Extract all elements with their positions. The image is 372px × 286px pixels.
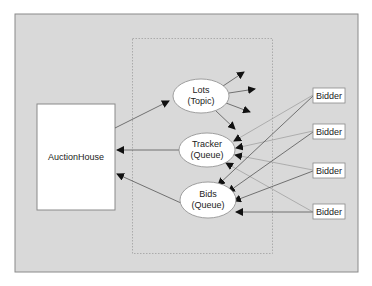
- bidder-node: Bidder: [313, 124, 345, 139]
- bidder-node: Bidder: [313, 204, 345, 219]
- bidder-label: Bidder: [316, 166, 342, 176]
- bidder-node: Bidder: [313, 88, 345, 103]
- bids-name: Bids: [199, 189, 217, 199]
- lots-topic-node: Lots (Topic): [173, 79, 229, 113]
- bidder-label: Bidder: [316, 127, 342, 137]
- bidder-label: Bidder: [316, 207, 342, 217]
- tracker-kind: (Queue): [190, 150, 223, 160]
- bids-queue-node: Bids (Queue): [180, 182, 236, 218]
- bidder-label: Bidder: [316, 91, 342, 101]
- auction-house-node: AuctionHouse: [37, 104, 115, 210]
- tracker-name: Tracker: [192, 139, 222, 149]
- bids-kind: (Queue): [191, 200, 224, 210]
- auction-house-label: AuctionHouse: [48, 152, 104, 162]
- lots-name: Lots: [192, 85, 210, 95]
- lots-kind: (Topic): [187, 96, 214, 106]
- tracker-queue-node: Tracker (Queue): [179, 133, 235, 167]
- bidder-node: Bidder: [313, 163, 345, 178]
- auction-architecture-diagram: AuctionHouse Lots (Topic) Tracker (Queu: [0, 0, 372, 286]
